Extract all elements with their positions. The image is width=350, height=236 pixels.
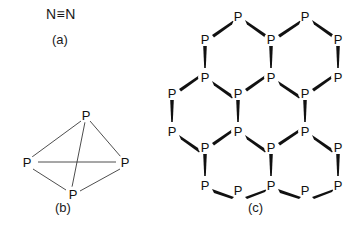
- sheet-bond-group: [170, 20, 340, 199]
- wedge-bond: [212, 81, 234, 99]
- atom-label-p: P: [301, 86, 310, 101]
- wedge-bond: [245, 189, 267, 199]
- atom-label-p-left: P: [23, 155, 32, 170]
- wedge-bond: [278, 189, 301, 199]
- wedge-bond-vertical: [336, 154, 340, 176]
- wedge-bond: [278, 20, 301, 38]
- atom-label-p: P: [301, 9, 310, 24]
- atom-label-p: P: [301, 183, 310, 198]
- atom-label-p: P: [201, 32, 210, 47]
- wedge-bond-vertical: [336, 46, 340, 68]
- atom-label-p: P: [201, 178, 210, 193]
- atom-label-p: P: [334, 178, 343, 193]
- atom-label-p: P: [334, 70, 343, 85]
- atom-label-p: P: [267, 140, 276, 155]
- wedge-bond: [278, 81, 301, 99]
- p4-bond-group: [32, 121, 121, 191]
- wedge-bond-vertical: [269, 154, 273, 176]
- atom-label-p: P: [267, 70, 276, 85]
- wedge-bond: [245, 135, 267, 153]
- wedge-bond: [312, 74, 334, 92]
- wedge-bond-vertical: [236, 100, 240, 122]
- atom-label-p: P: [168, 124, 177, 139]
- wedge-bond-vertical: [170, 100, 174, 122]
- figure-root: N≡N (a) P P P P (b): [0, 0, 350, 236]
- atom-label-p: P: [334, 140, 343, 155]
- atom-label-p: P: [168, 86, 177, 101]
- wedge-bond-vertical: [269, 46, 273, 68]
- wedge-bond: [245, 20, 267, 38]
- p4-tetrahedron-diagram: P P P P: [0, 95, 160, 210]
- bond-right-bottom: [80, 169, 120, 191]
- wedge-bond: [245, 74, 267, 92]
- atom-label-p: P: [301, 124, 310, 139]
- wedge-bond-vertical: [203, 46, 207, 68]
- wedge-bond-vertical: [203, 154, 207, 176]
- bond-top-bottom: [72, 122, 85, 187]
- wedge-bond: [312, 189, 334, 199]
- sheet-atom-halo-group: [165, 9, 345, 197]
- atom-label-p: P: [234, 9, 243, 24]
- wedge-bond: [312, 20, 334, 38]
- wedge-bond-vertical: [303, 100, 307, 122]
- panel-label-c: (c): [248, 200, 263, 215]
- bond-top-left: [32, 121, 81, 157]
- dinitrogen-formula: N≡N: [46, 6, 76, 22]
- atom-label-p: P: [234, 124, 243, 139]
- atom-label-p: P: [201, 70, 210, 85]
- wedge-bond: [212, 20, 234, 38]
- atom-label-p: P: [267, 32, 276, 47]
- atom-label-p: P: [234, 183, 243, 198]
- atom-label-p: P: [267, 178, 276, 193]
- wedge-bond: [179, 135, 201, 153]
- wedge-bond: [212, 128, 234, 146]
- sheet-atom-label-group: P P P P P P P P P P P P P P P P P P P P …: [168, 9, 343, 198]
- panel-label-a: (a): [52, 32, 68, 47]
- atom-label-p: P: [334, 32, 343, 47]
- atom-label-p: P: [234, 86, 243, 101]
- bond-left-bottom: [33, 169, 66, 190]
- wedge-bond: [179, 74, 201, 92]
- wedge-bond: [278, 128, 301, 146]
- black-phosphorus-sheet-diagram: P P P P P P P P P P P P P P P P P P P P …: [150, 2, 350, 202]
- atom-label-p: P: [201, 140, 210, 155]
- panel-label-b: (b): [55, 200, 71, 215]
- atom-label-p-top: P: [82, 108, 91, 123]
- wedge-bond: [312, 135, 334, 153]
- bond-top-right: [90, 121, 121, 157]
- wedge-bond: [212, 189, 234, 199]
- atom-label-p-right: P: [121, 155, 130, 170]
